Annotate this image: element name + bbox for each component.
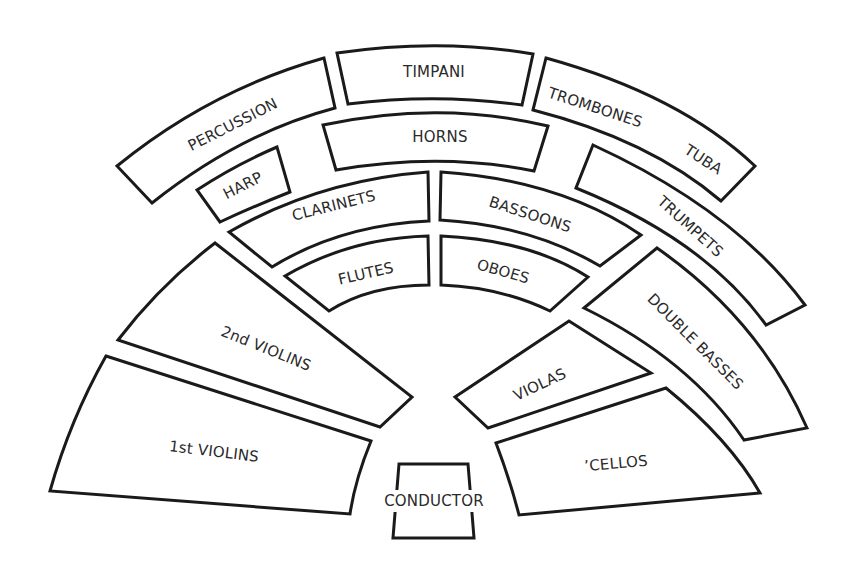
section-timpani: TIMPANI (337, 46, 533, 105)
section-horns: HORNS (323, 113, 548, 171)
section-conductor: CONDUCTOR (372, 464, 496, 538)
timpani-label: TIMPANI (402, 63, 465, 81)
orchestra-seating-diagram: PERCUSSION TIMPANI TROMBONES TUBA HARP H… (0, 0, 856, 567)
conductor-label: CONDUCTOR (384, 492, 484, 510)
horns-label: HORNS (412, 128, 467, 146)
